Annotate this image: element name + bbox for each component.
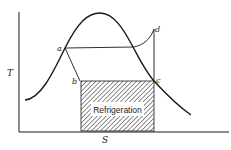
refrigeration-label: Refrigeration [93, 105, 142, 115]
process-line-a-condense [65, 47, 134, 48]
point-label-b: b [72, 77, 77, 86]
y-axis-label: T [7, 68, 14, 78]
ts-diagram: Refrigeration a b c d T S [0, 0, 231, 150]
process-line-superheat-d [134, 29, 154, 47]
point-label-a: a [57, 44, 62, 53]
point-label-d: d [155, 25, 160, 34]
x-axis-label: S [102, 135, 108, 145]
point-label-c: c [156, 76, 161, 85]
